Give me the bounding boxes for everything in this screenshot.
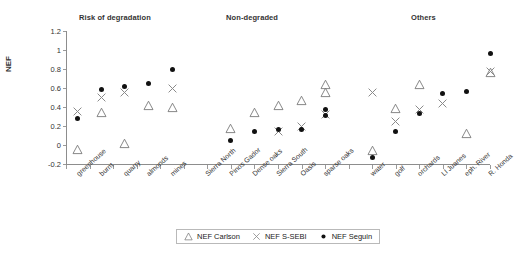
data-point	[296, 92, 307, 103]
data-point	[119, 78, 130, 89]
legend-marker-circle-icon	[319, 232, 328, 241]
data-point	[273, 121, 284, 132]
data-point	[485, 63, 496, 74]
data-point	[119, 135, 130, 146]
data-point	[367, 84, 378, 95]
data-point	[367, 149, 378, 160]
data-point	[320, 101, 331, 112]
chart-legend: NEF CarlsonNEF S-SEBINEF Seguin	[176, 229, 380, 244]
legend-item[interactable]: NEF Carlson	[184, 232, 240, 241]
data-point	[273, 97, 284, 108]
data-point	[96, 81, 107, 92]
data-point	[167, 80, 178, 91]
data-point	[437, 85, 448, 96]
data-point	[390, 100, 401, 111]
legend-marker-triangle-icon	[184, 232, 193, 241]
data-point	[225, 120, 236, 131]
data-point	[414, 76, 425, 87]
legend-label: NEF Seguin	[332, 232, 372, 241]
legend-label: NEF Carlson	[197, 232, 240, 241]
data-point	[72, 141, 83, 152]
data-point	[296, 121, 307, 132]
legend-item[interactable]: NEF Seguin	[319, 232, 372, 241]
data-point	[485, 45, 496, 56]
data-point	[390, 113, 401, 124]
data-point	[320, 76, 331, 87]
data-point	[167, 99, 178, 110]
x-tick-mark	[349, 165, 350, 169]
data-point	[414, 105, 425, 116]
legend-item[interactable]: NEF S-SEBI	[252, 232, 307, 241]
data-point	[143, 75, 154, 86]
data-point	[249, 123, 260, 134]
y-axis-line	[66, 31, 67, 164]
data-point	[225, 132, 236, 143]
data-point	[72, 110, 83, 121]
data-point	[167, 61, 178, 72]
data-point	[249, 104, 260, 115]
data-point	[390, 123, 401, 134]
legend-marker-cross-icon	[252, 232, 261, 241]
data-point	[461, 83, 472, 94]
data-point	[143, 97, 154, 108]
legend-label: NEF S-SEBI	[265, 232, 307, 241]
data-point	[461, 125, 472, 136]
x-tick-mark	[66, 165, 67, 169]
data-point	[96, 104, 107, 115]
